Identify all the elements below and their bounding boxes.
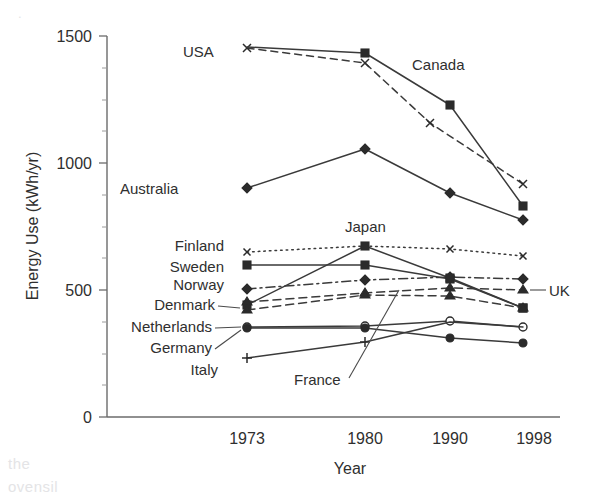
y-axis-title: Energy Use (kWh/yr) [24, 152, 41, 300]
line-chart-plot: 1500 1000 500 0 1973 1980 1990 1998 Year… [0, 0, 599, 502]
germany-leader-line [215, 330, 241, 349]
series-finland-markers [244, 243, 527, 260]
x-tick-label-1998: 1998 [516, 430, 552, 447]
series-canada [247, 47, 527, 210]
y-tick-label-0: 0 [83, 409, 92, 426]
series-label-france: France [294, 371, 341, 388]
series-label-usa: USA [183, 43, 214, 60]
x-axis-title: Year [334, 460, 367, 477]
series-label-norway: Norway [173, 276, 224, 293]
series-label-canada: Canada [412, 56, 465, 73]
series-norway-line [247, 277, 523, 289]
series-usa-line [247, 48, 523, 184]
series-canada-markers [361, 49, 527, 210]
chart-figure: . the ovensil 1500 1000 500 [0, 0, 599, 502]
series-label-netherlands: Netherlands [131, 318, 212, 335]
series-australia-line [247, 149, 523, 220]
series-label-germany: Germany [150, 339, 212, 356]
y-tick-label-1500: 1500 [56, 28, 92, 45]
series-denmark-line [247, 295, 523, 310]
series-canada-line [247, 47, 523, 206]
x-tick-label-1973: 1973 [229, 430, 265, 447]
series-label-italy: Italy [190, 361, 218, 378]
series-australia-markers [242, 144, 528, 225]
series-norway [242, 272, 528, 294]
series-uk-line [247, 288, 523, 302]
series-germany [243, 324, 527, 347]
denmark-leader-line [218, 306, 240, 308]
series-label-uk: UK [549, 282, 570, 299]
series-label-sweden: Sweden [170, 258, 224, 275]
series-finland [244, 243, 527, 260]
axis-group: 1500 1000 500 0 1973 1980 1990 1998 Year… [24, 28, 560, 477]
series-norway-markers [242, 272, 528, 294]
y-tick-label-500: 500 [65, 282, 92, 299]
series-label-denmark: Denmark [154, 296, 215, 313]
x-tick-label-1990: 1990 [432, 430, 468, 447]
series-label-australia: Australia [120, 180, 179, 197]
series-label-finland: Finland [175, 237, 224, 254]
series-germany-line [247, 328, 523, 343]
y-tick-label-1000: 1000 [56, 155, 92, 172]
series-label-japan: Japan [345, 218, 386, 235]
series-finland-line [247, 246, 523, 256]
series-australia [242, 144, 528, 225]
netherlands-leader-line [215, 327, 241, 328]
x-tick-label-1980: 1980 [347, 430, 383, 447]
france-leader-line [349, 290, 399, 378]
